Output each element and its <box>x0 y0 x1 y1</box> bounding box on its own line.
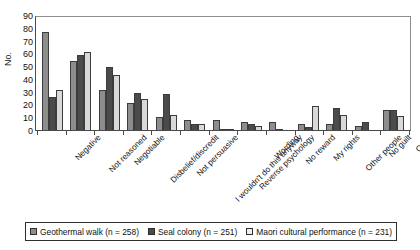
legend-item[interactable]: Seal colony (n = 251) <box>148 227 237 237</box>
bar-series-2 <box>141 99 148 130</box>
bar-series-0 <box>70 61 77 130</box>
bar-series-1 <box>220 129 227 130</box>
bar-series-0 <box>241 122 248 130</box>
y-axis-tick-label: 80 <box>23 25 33 34</box>
y-axis-title: No. <box>3 52 13 66</box>
bar-series-1 <box>390 110 397 130</box>
bar-series-2 <box>227 129 234 130</box>
legend-label: Seal colony (n = 251) <box>158 227 237 237</box>
bar-group <box>123 17 151 130</box>
bar-series-2 <box>56 90 63 130</box>
bar-series-2 <box>312 106 319 130</box>
bar-group <box>323 17 351 130</box>
series-0-swatch <box>30 228 37 235</box>
y-axis-tick-label: 60 <box>23 50 33 59</box>
y-axis-tick-label: 50 <box>23 63 33 72</box>
bar-group <box>180 17 208 130</box>
bar-group <box>38 17 66 130</box>
bar-series-2 <box>113 75 120 130</box>
bar-series-0 <box>355 126 362 130</box>
bar-series-0 <box>213 120 220 130</box>
bar-group <box>380 17 408 130</box>
bar-series-1 <box>106 67 113 130</box>
bar-series-1 <box>248 124 255 130</box>
bar-group <box>152 17 180 130</box>
bar-series-1 <box>191 124 198 130</box>
chart-screenshot: No. 9080706050403020100 NegativeNot reas… <box>0 0 420 250</box>
bar-group <box>351 17 379 130</box>
chart-legend: Geothermal walk (n = 258)Seal colony (n … <box>25 222 397 241</box>
bar-group <box>95 17 123 130</box>
bar-series-0 <box>99 90 106 130</box>
y-axis-tick-label: 70 <box>23 38 33 47</box>
y-axis-tick-label: 30 <box>23 89 33 98</box>
y-axis-tick-label: 90 <box>23 12 33 21</box>
bar-group <box>237 17 265 130</box>
bar-series-2 <box>84 52 91 130</box>
bar-series-1 <box>49 97 56 130</box>
bar-series-0 <box>326 124 333 130</box>
bar-group <box>66 17 94 130</box>
legend-item[interactable]: Geothermal walk (n = 258) <box>30 227 139 237</box>
y-axis-tick-label: 40 <box>23 76 33 85</box>
x-axis-label: Negative <box>74 133 103 162</box>
bar-series-0 <box>127 103 134 130</box>
bar-series-1 <box>163 94 170 130</box>
y-axis-tick-label: 20 <box>23 101 33 110</box>
bar-series-0 <box>298 124 305 130</box>
bar-series-0 <box>184 120 191 130</box>
bar-series-1 <box>362 122 369 130</box>
bar-series-2 <box>198 124 205 130</box>
bar-series-1 <box>77 55 84 130</box>
bar-series-1 <box>134 93 141 130</box>
x-axis-category-labels: NegativeNot reasonedNegotiableDisbelief/… <box>35 133 411 215</box>
bar-series-1 <box>333 108 340 130</box>
chart-plot-area: No. 9080706050403020100 NegativeNot reas… <box>0 0 420 218</box>
bar-series-0 <box>156 117 163 130</box>
legend-label: Maori cultural performance (n = 231) <box>256 227 392 237</box>
bar-series-1 <box>276 129 283 130</box>
plot-frame <box>35 16 411 131</box>
bar-series-0 <box>383 110 390 130</box>
bar-groups <box>36 17 410 130</box>
bar-series-0 <box>42 32 49 130</box>
x-axis-label: Other <box>414 133 420 154</box>
series-2-swatch <box>246 228 253 235</box>
y-axis-tick-label: 0 <box>28 127 33 136</box>
bar-series-1 <box>305 127 312 130</box>
legend-label: Geothermal walk (n = 258) <box>40 227 139 237</box>
bar-series-2 <box>170 115 177 130</box>
bar-series-2 <box>340 115 347 130</box>
bar-group <box>294 17 322 130</box>
y-axis-tick-label: 10 <box>23 114 33 123</box>
legend-item[interactable]: Maori cultural performance (n = 231) <box>246 227 392 237</box>
bar-group <box>209 17 237 130</box>
y-axis-tick-labels: 9080706050403020100 <box>13 12 35 131</box>
bar-series-2 <box>255 126 262 130</box>
bar-series-0 <box>269 122 276 130</box>
bar-group <box>266 17 294 130</box>
series-1-swatch <box>148 228 155 235</box>
bar-series-2 <box>397 116 404 130</box>
